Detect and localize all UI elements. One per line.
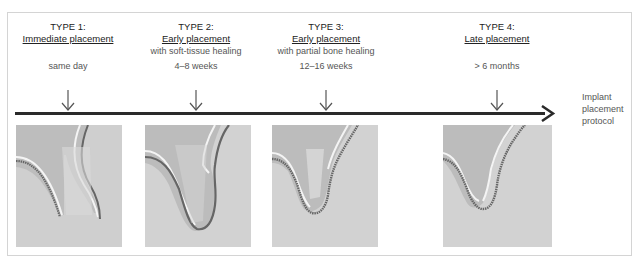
arrow-right-icon xyxy=(540,105,556,122)
stage-time: 12–16 weeks xyxy=(246,61,406,71)
down-arrow-icon xyxy=(490,90,504,112)
down-arrow-icon xyxy=(189,90,203,112)
stage-type-label: TYPE 4: xyxy=(417,21,577,33)
illustration-type-4 xyxy=(443,125,552,247)
stage-time: > 6 months xyxy=(417,61,577,71)
stage-name: Late placement xyxy=(417,33,577,45)
timeline-axis xyxy=(15,112,545,115)
stage-subtitle: with partial bone healing xyxy=(246,45,406,57)
stage-name: Early placement xyxy=(246,33,406,45)
stage-type-4: TYPE 4: Late placement > 6 months xyxy=(417,21,577,45)
stage-type-label: TYPE 3: xyxy=(246,21,406,33)
down-arrow-icon xyxy=(61,90,75,112)
stage-type-3: TYPE 3: Early placement with partial bon… xyxy=(246,21,406,57)
axis-label: Implant placement protocol xyxy=(582,91,624,127)
illustration-type-2 xyxy=(145,125,251,247)
illustration-type-1 xyxy=(16,125,122,247)
down-arrow-icon xyxy=(319,90,333,112)
illustration-type-3 xyxy=(272,125,378,247)
